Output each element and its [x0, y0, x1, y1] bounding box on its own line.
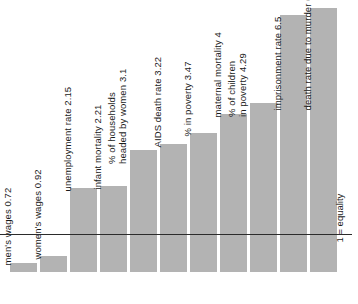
bar-label: unemployment rate 2.15 [63, 87, 74, 192]
bar [70, 188, 97, 272]
bar [130, 150, 157, 272]
bar-label: women's wages 0.92 [33, 169, 44, 259]
bar [40, 256, 67, 272]
bar-label: % of children in poverty 4.29 [227, 53, 248, 117]
bar-label: % in poverty 3.47 [183, 61, 194, 136]
bar [190, 133, 217, 272]
bar [10, 263, 37, 272]
bar-label: death rate due to murder 6.76 [303, 0, 314, 111]
bar [160, 144, 187, 272]
bar [100, 186, 127, 272]
bar-label: men's wages 0.72 [3, 188, 14, 266]
bar-label: imprisonment rate 6.5 [273, 17, 284, 111]
equality-reference-label: 1 = equality [335, 194, 346, 243]
bar [250, 103, 277, 272]
bar-label: maternal mortality 4 [213, 32, 224, 117]
bar [220, 114, 247, 272]
bar-label: infant mortality 2.21 [93, 104, 104, 189]
bar-label: AIDS death rate 3.22 [153, 57, 164, 148]
equality-reference-line [0, 234, 352, 235]
plot-area: men's wages 0.72women's wages 0.92unempl… [0, 0, 358, 304]
bar-label: % of households headed by women 3.1 [107, 69, 128, 164]
inequality-bar-chart: men's wages 0.72women's wages 0.92unempl… [0, 0, 358, 304]
